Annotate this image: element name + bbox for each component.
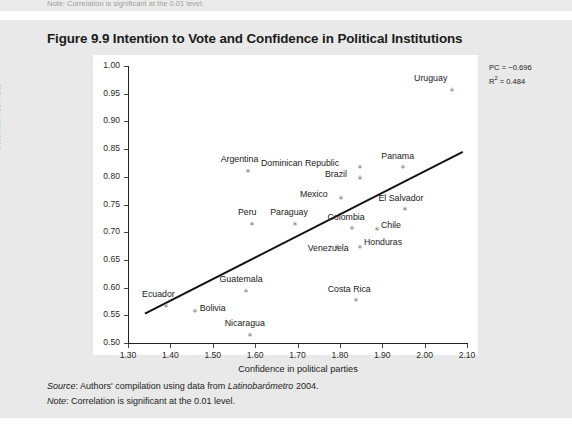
figure-page: Note: Correlation is significant at the …	[0, 0, 572, 442]
x-tick-label: 2.00	[405, 350, 445, 360]
source-body: : Authors' compilation using data from	[76, 381, 228, 391]
data-point-label: Bolivia	[200, 303, 226, 313]
data-point	[400, 165, 403, 168]
data-point-label: Paraguay	[270, 207, 308, 217]
x-tick-mark	[382, 344, 383, 348]
data-point-label: Chile	[381, 220, 401, 230]
y-tick-label: 0.90	[86, 115, 120, 125]
x-tick-label: 1.50	[193, 350, 233, 360]
data-point-label: Peru	[238, 207, 257, 217]
data-point	[402, 207, 405, 210]
x-axis-label: Confidence in political parties	[128, 364, 468, 374]
data-point	[357, 245, 360, 248]
x-tick-mark	[298, 344, 299, 348]
note-line: Note: Correlation is significant at the …	[47, 394, 527, 409]
x-tick-mark	[128, 344, 129, 348]
data-point-label: Panama	[381, 151, 414, 161]
r-squared-value: R2 = 0.484	[489, 73, 532, 87]
figure-title: Figure 9.9 Intention to Vote and Confide…	[47, 31, 547, 46]
data-point	[349, 226, 352, 229]
data-point-label: Dominican Republic	[261, 158, 339, 168]
y-tick-label: 0.85	[86, 143, 120, 153]
data-point-label: Colombia	[327, 212, 364, 222]
y-tick-label: 0.65	[86, 254, 120, 264]
data-point-label: Argentina	[221, 154, 259, 164]
x-tick-mark	[340, 344, 341, 348]
data-point-label: Nicaragua	[225, 318, 265, 328]
y-tick-label: 0.95	[86, 88, 120, 98]
x-tick-label: 1.70	[278, 350, 318, 360]
source-year: 2004.	[293, 381, 318, 391]
x-tick-label: 1.60	[235, 350, 275, 360]
y-tick-label: 1.00	[86, 60, 120, 70]
x-tick-label: 1.90	[362, 350, 402, 360]
data-point	[338, 196, 341, 199]
data-point	[249, 222, 252, 225]
y-axis-label: Intention to vote	[0, 83, 2, 150]
data-point-label: Costa Rica	[328, 284, 371, 294]
x-tick-label: 1.30	[108, 350, 148, 360]
x-tick-mark	[255, 344, 256, 348]
data-point-label: Guatemala	[220, 274, 263, 284]
data-point	[353, 298, 356, 301]
data-point-label: Ecuador	[142, 289, 175, 299]
data-point-label: Uruguay	[414, 73, 447, 83]
data-point-label: Mexico	[300, 189, 328, 199]
data-point	[245, 169, 248, 172]
y-tick-label: 0.55	[86, 309, 120, 319]
data-point	[292, 222, 295, 225]
source-line: Source: Authors' compilation using data …	[47, 379, 527, 394]
scatter-plot-area: UruguayArgentinaDominican RepublicPanama…	[128, 66, 467, 343]
data-point	[192, 309, 195, 312]
data-point	[163, 304, 166, 307]
x-tick-label: 1.80	[320, 350, 360, 360]
x-tick-label: 1.40	[150, 350, 190, 360]
y-tick-label: 0.80	[86, 171, 120, 181]
y-tick-label: 0.70	[86, 226, 120, 236]
note-body: : Correlation is significant at the 0.01…	[66, 396, 235, 406]
page-gap	[0, 11, 572, 20]
note-label: Note	[47, 396, 66, 406]
data-point	[357, 165, 360, 168]
source-work-title: Latinobarómetro	[228, 381, 294, 391]
trendline	[128, 66, 467, 343]
source-label: Source	[47, 381, 76, 391]
data-point-label: Venezuela	[308, 243, 349, 253]
x-tick-mark	[467, 344, 468, 348]
y-tick-label: 0.75	[86, 199, 120, 209]
x-tick-mark	[425, 344, 426, 348]
data-point	[357, 176, 360, 179]
x-tick-mark	[213, 344, 214, 348]
y-tick-label: 0.50	[86, 337, 120, 347]
x-tick-label: 2.10	[447, 350, 487, 360]
figure-footnotes: Source: Authors' compilation using data …	[47, 379, 527, 408]
x-tick-mark	[170, 344, 171, 348]
data-point	[374, 227, 377, 230]
pearson-correlation-value: PC = −0.696	[489, 62, 532, 73]
cut-off-note-text: Note: Correlation is significant at the …	[47, 0, 347, 9]
statistics-annotation: PC = −0.696 R2 = 0.484	[489, 62, 532, 87]
r-squared-number: = 0.484	[498, 77, 526, 86]
data-point	[449, 88, 452, 91]
data-point-label: Brazil	[325, 169, 347, 179]
y-tick-label: 0.60	[86, 282, 120, 292]
data-point	[243, 289, 246, 292]
data-point-label: Honduras	[364, 237, 402, 247]
data-point-label: El Salvador	[378, 193, 423, 203]
data-point	[247, 333, 250, 336]
